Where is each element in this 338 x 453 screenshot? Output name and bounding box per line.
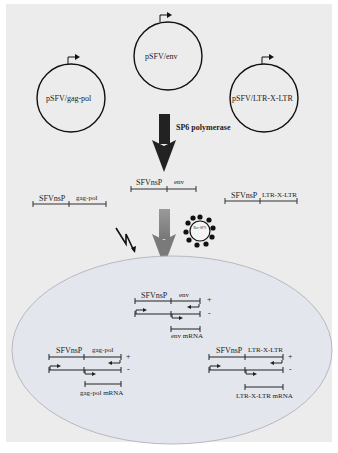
cell-env-plus: + <box>207 296 212 304</box>
cell-gag-pol-right-label: gag-pol <box>92 347 113 354</box>
plasmid-label-ltr: pSFV/LTR-X-LTR <box>232 95 293 103</box>
plasmid-label-gag-pol: pSFV/gag-pol <box>46 95 91 103</box>
cell-gag-pol-left-label: SFVnsP <box>56 347 82 355</box>
cell-ltr-plus: + <box>288 353 293 361</box>
transcript-env-right: env <box>174 179 184 186</box>
transcript-gag-pol-right: gag-pol <box>76 195 97 202</box>
transcript-ltr-right: LTR-X-LTR <box>262 192 297 199</box>
cell-env-minus: - <box>208 310 211 318</box>
transcript-env-left: SFVnsP <box>136 179 162 187</box>
cell-env-right-label: env <box>179 292 189 299</box>
sp6-arrow-icon <box>152 114 176 172</box>
virus-particle-icon <box>183 214 215 247</box>
plasmid-gag-pol <box>37 54 105 132</box>
cell-gag-pol-minus: - <box>127 366 130 374</box>
promoter-arrow-icon <box>75 54 80 60</box>
cell-ltr-mrna: LTR-X-LTR mRNA <box>236 393 293 400</box>
cell-env-left-label: SFVnsP <box>141 292 167 300</box>
cell-ltr-left-label: SFVnsP <box>216 347 242 355</box>
plasmid-ltr <box>230 54 298 132</box>
transcript-gag-pol-left: SFVnsP <box>39 195 65 203</box>
diagram-graphics <box>0 0 338 453</box>
cell-gag-pol-plus: + <box>126 353 131 361</box>
plasmid-env <box>134 12 202 90</box>
promoter-arrow-icon <box>167 12 172 18</box>
plasmid-label-env: pSFV/env <box>145 53 177 61</box>
step-label: SP6 polymerase <box>176 124 230 132</box>
virus-label: Rec-SFV <box>193 227 207 231</box>
transcript-ltr-left: SFVnsP <box>231 192 257 200</box>
cell-gag-pol-mrna: gag-pol mRNA <box>80 390 123 397</box>
promoter-arrow-icon <box>269 54 274 60</box>
lightning-icon <box>116 228 134 251</box>
cell-ltr-right-label: LTR-X-LTR <box>248 347 283 354</box>
cell-env-mrna: env mRNA <box>171 333 203 340</box>
cell-ltr-minus: - <box>289 366 292 374</box>
